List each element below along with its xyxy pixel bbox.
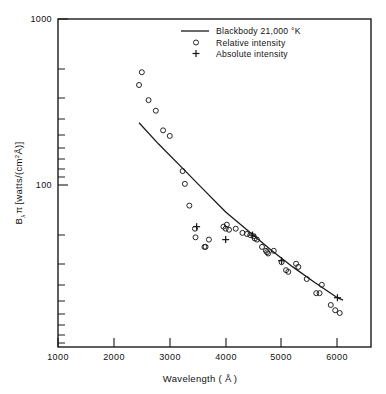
data-point-circle [161, 128, 166, 133]
series-relative-intensity [137, 70, 343, 316]
data-point-circle [182, 181, 187, 186]
spectral-intensity-figure: 1000 100 1000 2000 3000 4000 5000 6000 W… [0, 0, 386, 394]
data-point-circle [328, 303, 333, 308]
data-point-plus [193, 223, 200, 230]
x-axis-title-text: Wavelength ( [163, 373, 223, 384]
legend-label-relative-intensity: Relative intensity [216, 38, 286, 48]
y-tick-label-100: 100 [36, 180, 52, 190]
axes-border [58, 19, 371, 347]
chart-svg: 1000 100 1000 2000 3000 4000 5000 6000 W… [0, 0, 386, 394]
data-point-circle [260, 244, 265, 249]
series-blackbody-21-000-k [139, 123, 343, 300]
svg-text:Wavelength (Å): Wavelength (Å) [163, 373, 237, 384]
data-point-circle [167, 133, 172, 138]
x-tick-label-6000: 6000 [326, 352, 348, 362]
y-tick-label-1000: 1000 [30, 14, 52, 24]
data-point-circle [146, 98, 151, 103]
data-point-circle [317, 291, 322, 296]
y-axis-title-bracket-close: )] [13, 142, 24, 148]
data-point-circle [187, 203, 192, 208]
x-tick-label-2000: 2000 [103, 352, 125, 362]
y-axis-title-lambda: λ [19, 214, 26, 218]
legend-marker-plus [193, 50, 200, 57]
y-axis-title-pi: π [13, 206, 24, 213]
data-point-circle [137, 83, 142, 88]
y-axis-title: Bλπ[watts/(cm2Å)] [13, 142, 26, 225]
data-point-circle [153, 108, 158, 113]
x-axis-title: Wavelength (Å) [163, 373, 237, 384]
x-tick-label-5000: 5000 [270, 352, 292, 362]
x-tick-label-3000: 3000 [159, 352, 181, 362]
data-point-circle [193, 235, 198, 240]
legend-label-blackbody: Blackbody 21,000 °K [216, 26, 301, 36]
y-axis-title-body: watts/(cm [13, 158, 24, 202]
blackbody-curve [139, 123, 343, 300]
data-point-circle [337, 311, 342, 316]
data-point-circle [206, 237, 211, 242]
y-axis-title-B: B [13, 218, 24, 225]
data-point-circle [227, 227, 232, 232]
svg-text:Bλπ[watts/(cm2Å)]: Bλπ[watts/(cm2Å)] [13, 142, 26, 225]
data-point-circle [180, 169, 185, 174]
data-point-plus [334, 294, 341, 301]
x-tick-label-1000: 1000 [47, 352, 69, 362]
y-axis-ticks [58, 19, 68, 343]
x-tick-label-4000: 4000 [215, 352, 237, 362]
data-point-circle [233, 226, 238, 231]
plot-frame [58, 19, 371, 347]
legend-marker-circle [194, 40, 199, 45]
data-point-plus [222, 236, 229, 243]
data-series-layer [137, 70, 344, 316]
data-point-circle [139, 70, 144, 75]
legend-label-absolute-intensity: Absolute intensity [216, 49, 288, 59]
x-axis-unit-angstrom: Å [225, 373, 232, 384]
x-axis-title-close: ) [234, 373, 237, 384]
series-absolute-intensity [193, 223, 341, 301]
x-axis-ticks [58, 338, 337, 347]
legend: Blackbody 21,000 °K Relative intensity A… [181, 26, 301, 59]
